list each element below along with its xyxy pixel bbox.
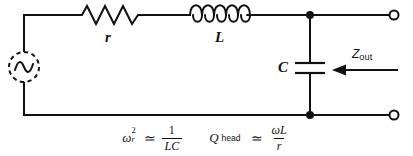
fraction-1: 1 LC xyxy=(162,124,183,152)
fraction-denominator-2: r xyxy=(274,138,285,153)
relation-approx-2: ≃ xyxy=(249,130,265,147)
inductor-label: L xyxy=(215,30,224,45)
fraction-numerator-1: 1 xyxy=(166,124,178,138)
fraction-numerator-2: ωL xyxy=(269,124,290,138)
fraction-denominator-1: LC xyxy=(162,138,183,153)
omega-subscript: r xyxy=(132,134,135,144)
terminal-top-right xyxy=(390,11,399,20)
formula-row: ω 2 r ≃ 1 LC Qhead ≃ ωL r xyxy=(0,124,413,152)
capacitor-symbol xyxy=(295,63,325,73)
capacitor-label: C xyxy=(278,60,288,75)
impedance-out-label: Zout xyxy=(352,48,372,62)
formula-resonant-frequency: ω 2 r ≃ 1 LC xyxy=(122,124,183,152)
impedance-arrow xyxy=(332,65,398,76)
omega-symbol: ω xyxy=(122,130,131,145)
q-subscript: head xyxy=(222,133,241,143)
fraction-2: ωL r xyxy=(269,124,290,152)
circuit-diagram: r L C Zout ω 2 r ≃ 1 LC Qhead ≃ ωL r xyxy=(0,0,413,156)
resistor-symbol xyxy=(77,6,143,24)
omega-r-squared: ω 2 r xyxy=(122,130,131,146)
terminal-bottom-right xyxy=(390,111,399,120)
relation-approx-1: ≃ xyxy=(142,130,158,147)
q-symbol: Q xyxy=(209,130,218,146)
inductor-symbol xyxy=(190,5,250,22)
formula-quality-factor: Qhead ≃ ωL r xyxy=(209,124,290,152)
resistor-label: r xyxy=(105,30,111,45)
junction-node-top xyxy=(306,11,314,19)
junction-node-bottom xyxy=(306,111,314,119)
impedance-subscript: out xyxy=(359,52,372,62)
